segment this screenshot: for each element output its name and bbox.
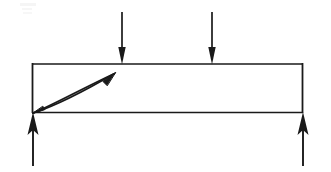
support-reaction-left [28, 112, 39, 166]
point-load-1-arrowhead [118, 47, 125, 65]
faint-mark-top-left [20, 3, 36, 14]
diagonal-crack-sliver [33, 73, 116, 114]
beam-outline [32, 63, 303, 113]
point-load-2-arrowhead [208, 47, 215, 65]
support-reaction-right [298, 112, 309, 166]
beam-diagram-canvas [0, 0, 331, 172]
point-load-2 [208, 12, 215, 65]
beam-diagram-figure: Simply supported beam free-body diagram [0, 0, 331, 172]
point-load-1 [118, 12, 125, 65]
